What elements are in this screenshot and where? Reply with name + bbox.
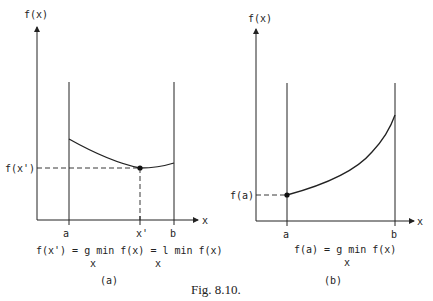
panel-b-y-marker: f(a) [230,190,254,201]
panel-a-x-axis-label: x [202,215,208,226]
panel-a-label: (a) [100,275,118,286]
panel-a-y-axis-label: f(x) [24,9,48,20]
panel-a-equation: f(x') = g min f(x) = l min f(x) [36,245,223,256]
panel-a-curve [69,139,174,168]
panel-b-equation: f(a) = g min f(x) [294,244,396,255]
panel-b: f(x) x f(a) a b f(a) = g min f(x) x (b) [230,13,423,286]
panel-a-equation-sub2: x [155,258,161,269]
figure-8-10: f(x) x f(x') a x' b f(x') = g min f(x) =… [0,0,433,301]
panel-b-equation-sub1: x [344,257,350,268]
diagram-canvas: f(x) x f(x') a x' b f(x') = g min f(x) =… [0,0,433,301]
panel-a-tick-xprime-label: x' [136,228,148,239]
panel-a-equation-sub1: x [90,258,96,269]
panel-a: f(x) x f(x') a x' b f(x') = g min f(x) =… [5,9,223,286]
panel-b-y-axis-label: f(x) [248,13,272,24]
panel-a-tick-a: a [63,228,69,239]
panel-b-min-point [284,192,289,197]
panel-a-min-point [137,165,142,170]
panel-a-y-marker: f(x') [5,163,35,174]
figure-caption: Fig. 8.10. [191,282,241,297]
panel-b-x-axis-label: x [417,216,423,227]
panel-b-label: (b) [324,275,342,286]
panel-b-tick-a: a [283,229,289,240]
panel-b-curve [287,115,395,195]
panel-b-tick-b: b [391,229,397,240]
panel-a-tick-b: b [170,228,176,239]
